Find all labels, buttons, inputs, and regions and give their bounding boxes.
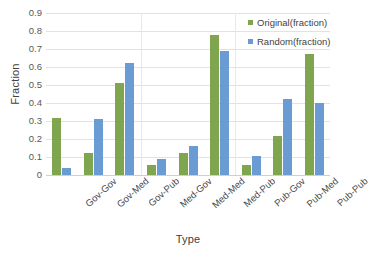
y-axis-tick-label: 0.6 — [2, 62, 42, 72]
x-axis-tick-label: Pub-Gov — [273, 176, 307, 208]
x-axis-tick-label: Med-Gov — [178, 176, 213, 209]
bar — [84, 153, 93, 176]
bar — [62, 168, 71, 175]
bar — [242, 165, 251, 175]
chart-legend: Original(fraction)Random(fraction) — [248, 18, 344, 55]
y-axis-tick-label: 0.4 — [2, 98, 42, 108]
y-axis-tick-label: 0 — [2, 170, 42, 180]
x-axis-tick-label: Gov-Med — [115, 176, 150, 209]
legend-swatch-icon — [248, 39, 253, 44]
x-axis-tick-label: Pub-Pub — [336, 176, 370, 208]
bar — [283, 99, 292, 175]
bar — [157, 159, 166, 175]
legend-swatch-icon — [248, 20, 253, 25]
bar — [125, 63, 134, 175]
bar — [189, 146, 198, 175]
y-axis-tick-label: 0.3 — [2, 116, 42, 126]
legend-item[interactable]: Random(fraction) — [248, 37, 344, 47]
y-axis-tick-label: 0.8 — [2, 26, 42, 36]
gridline — [46, 13, 330, 14]
bar — [179, 153, 188, 175]
y-axis-tick-label: 0.9 — [2, 8, 42, 18]
bar — [52, 118, 61, 175]
x-axis-title: Type — [46, 233, 330, 245]
y-axis-tick-label: 0.2 — [2, 134, 42, 144]
gridline — [46, 67, 330, 68]
y-axis-tick-label: 0.7 — [2, 44, 42, 54]
x-axis-tick-label: Gov-Gov — [84, 176, 119, 208]
group-separator — [235, 13, 236, 175]
y-axis-tick-label: 0.5 — [2, 80, 42, 90]
bar — [220, 51, 229, 175]
bar — [315, 103, 324, 175]
legend-item[interactable]: Original(fraction) — [248, 18, 344, 28]
group-separator — [141, 13, 142, 175]
bar — [147, 165, 156, 175]
legend-label: Random(fraction) — [257, 37, 330, 47]
y-axis-tick-label: 0.1 — [2, 152, 42, 162]
x-axis-tick-label: Gov-Pub — [147, 176, 181, 208]
gridline — [46, 85, 330, 86]
x-axis-tick-label: Pub-Med — [305, 176, 340, 209]
bar — [94, 119, 103, 175]
bar — [210, 35, 219, 175]
x-axis-tick-label: Med-Med — [210, 176, 246, 210]
bar — [273, 136, 282, 175]
bar — [115, 83, 124, 175]
legend-label: Original(fraction) — [257, 18, 327, 28]
x-axis-tick-label: Med-Pub — [241, 176, 276, 209]
bar — [252, 156, 261, 175]
x-axis-tick-labels: Gov-GovGov-MedGov-PubMed-GovMed-MedMed-P… — [46, 176, 330, 228]
bar — [305, 54, 314, 175]
